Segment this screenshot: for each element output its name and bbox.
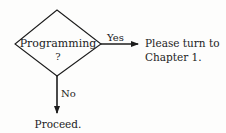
decision-label-line2: ? <box>55 51 60 62</box>
yes-branch: Yes Please turn to Chapter 1. <box>101 32 219 63</box>
decision-node: Programming ? <box>15 10 101 76</box>
yes-target-line2: Chapter 1. <box>145 51 202 63</box>
flowchart-svg: Programming ? Yes Please turn to Chapter… <box>0 0 226 133</box>
yes-target-line1: Please turn to <box>145 37 219 49</box>
decision-label-line1: Programming <box>20 37 97 50</box>
no-branch: No Proceed. <box>35 76 82 130</box>
no-label: No <box>61 88 76 99</box>
yes-label: Yes <box>106 32 124 43</box>
no-target: Proceed. <box>35 118 82 130</box>
flowchart-canvas: Programming ? Yes Please turn to Chapter… <box>0 0 226 133</box>
